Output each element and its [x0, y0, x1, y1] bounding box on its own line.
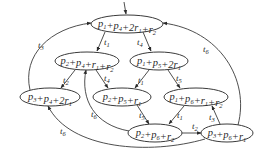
- edge-label-t6: t6: [91, 109, 98, 120]
- state-node-n1: p1+p4+2r1+r2: [91, 15, 163, 36]
- state-node-n3: p1+p5+2r1: [130, 52, 188, 71]
- edge-label-t4: t4: [104, 73, 111, 84]
- edge-label-t2: t2: [192, 121, 199, 132]
- edge-entry-to-n1: [124, 2, 126, 14]
- edge-label-t5: t5: [139, 110, 146, 121]
- edge-label-t5: t5: [176, 73, 183, 84]
- edge-label-t1: t1: [104, 37, 110, 48]
- nodes-group: p1+p4+2r1+r2p2+p4+r1+r2p1+p5+2r1p3+p4+2r…: [20, 15, 253, 143]
- edge-n8-to-n1: [163, 23, 241, 125]
- state-node-n6: p1+p6+r1+r2: [164, 88, 228, 109]
- edge-label-t2: t2: [63, 75, 70, 86]
- edge-label-t1: t1: [177, 110, 183, 121]
- state-node-n5: p2+p5+r1: [93, 88, 151, 107]
- edge-label-t3: t3: [209, 112, 216, 123]
- graph-svg: p1+p4+2r1+r2p2+p4+r1+r2p1+p5+2r1p3+p4+2r…: [0, 0, 265, 156]
- edge-label-t4: t4: [137, 37, 144, 48]
- edge-label-t1: t1: [138, 75, 144, 86]
- edge-label-t6: t6: [60, 126, 67, 137]
- state-node-n8: p3+p6+r1: [201, 124, 253, 143]
- edge-n8-to-n4: [48, 106, 205, 147]
- edge-label-t6: t6: [203, 44, 210, 55]
- petri-net-reachability-graph: p1+p4+2r1+r2p2+p4+r1+r2p1+p5+2r1p3+p4+2r…: [0, 0, 265, 156]
- state-node-n2: p2+p4+r1+r2: [55, 52, 119, 73]
- edge-label-t3: t3: [38, 40, 45, 51]
- edge-labels-group: t1t4t3t6t2t4t1t5t5t1t6t2t3t6: [38, 37, 216, 137]
- state-node-n4: p3+p4+2r1: [20, 88, 80, 107]
- state-node-n7: p2+p6+r2: [128, 124, 182, 143]
